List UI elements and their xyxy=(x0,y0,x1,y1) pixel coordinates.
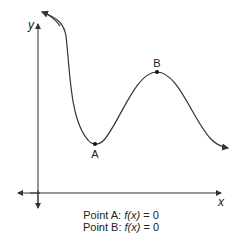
caption-point-b: Point B: f(x) = 0 xyxy=(0,221,242,233)
caption-prefix: Point B: xyxy=(83,221,125,233)
point-a-marker xyxy=(93,142,97,146)
caption-fx: f(x) xyxy=(125,221,141,233)
caption-fx: f(x) xyxy=(124,209,140,221)
x-axis-label: x xyxy=(217,195,225,209)
caption-suffix: = 0 xyxy=(140,209,159,221)
y-axis-label: y xyxy=(27,18,35,32)
function-curve xyxy=(42,12,228,148)
point-a-label: A xyxy=(91,148,99,160)
caption-point-a: Point A: f(x) = 0 xyxy=(0,209,242,221)
point-b-label: B xyxy=(153,57,160,69)
function-graph: A B y x xyxy=(0,0,242,241)
point-b-marker xyxy=(155,70,159,74)
caption-suffix: = 0 xyxy=(140,221,159,233)
caption-prefix: Point A: xyxy=(83,209,124,221)
